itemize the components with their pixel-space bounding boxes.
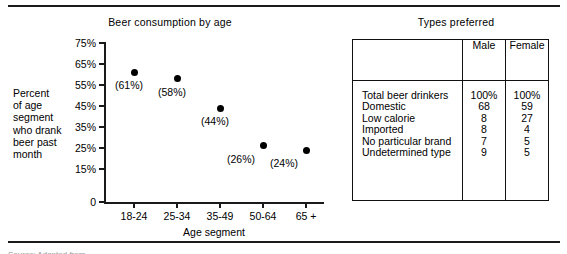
y-axis-tick-label-text: 55% (64, 80, 96, 91)
beer-consumption-chart-panel: Beer consumption by age Percentof ageseg… (0, 8, 340, 238)
figure-container: Beer consumption by age Percentof ageseg… (0, 0, 567, 254)
y-axis-tick-label-text: 15% (64, 164, 96, 175)
data-point-label: (44%) (201, 116, 229, 127)
types-preferred-table: Male Female Total beer drinkersDomesticL… (352, 39, 549, 201)
y-axis-tick (99, 63, 105, 65)
y-axis-tick-label: 75% (62, 38, 96, 49)
data-point (217, 105, 224, 112)
x-axis-label: Age segment (104, 226, 324, 238)
table-row-female-value: 4 (506, 124, 548, 135)
y-axis-tick-label: 45% (62, 101, 96, 112)
data-point (174, 75, 181, 82)
y-axis-tick (99, 84, 105, 86)
y-axis-tick (99, 42, 105, 44)
table-body: Total beer drinkersDomesticLow calorieIm… (353, 81, 549, 201)
y-axis-tick-label-text: 45% (64, 101, 96, 112)
y-axis-tick-label-text: 0 (64, 197, 96, 208)
y-axis-tick-label-text: 65% (64, 59, 96, 70)
table-row-label: Imported (362, 124, 462, 135)
y-axis-tick-label: 15% (62, 164, 96, 175)
y-axis-tick-label-text: 35% (64, 122, 96, 133)
types-preferred-panel: Types preferred Male Female Total beer d… (340, 8, 567, 238)
x-axis-tick (133, 202, 135, 208)
data-point (303, 147, 310, 154)
y-axis-tick (99, 147, 105, 149)
x-axis-tick (262, 202, 264, 208)
y-axis-tick (99, 105, 105, 107)
table-body-row: Total beer drinkersDomesticLow calorieIm… (353, 81, 549, 201)
column-header-male: Male (463, 40, 506, 81)
data-point-label: (24%) (270, 158, 298, 169)
bottom-divider-rule (8, 241, 560, 243)
table-row-male-value: 8 (463, 124, 505, 135)
x-axis-tick-label: 65 + (274, 211, 338, 222)
y-axis-tick-label: 35% (62, 122, 96, 133)
table-row-female-value: 5 (506, 147, 548, 158)
top-divider-rule (8, 5, 560, 7)
column-header-blank (353, 40, 463, 81)
table-header: Male Female (353, 40, 549, 81)
cutoff-source-text: Source: Adapted from (8, 250, 308, 254)
y-axis-tick (99, 168, 105, 170)
y-axis-tick (99, 201, 105, 203)
y-axis-tick (99, 126, 105, 128)
data-point-label: (58%) (158, 87, 186, 98)
plot-area: 75%65%55%45%35%25%15%018-24(61%)25-34(58… (0, 8, 340, 238)
male-values-cell: 100%688879 (463, 81, 506, 201)
data-point (260, 142, 267, 149)
x-axis-tick (219, 202, 221, 208)
column-header-female: Female (506, 40, 549, 81)
x-axis-tick (176, 202, 178, 208)
y-axis-tick-label: 55% (62, 80, 96, 91)
y-axis-tick-label: 65% (62, 59, 96, 70)
y-axis-tick-label-text: 25% (64, 143, 96, 154)
table-row-label: Undetermined type (362, 147, 462, 158)
table-title: Types preferred (352, 16, 560, 28)
table-row-male-value: 9 (463, 147, 505, 158)
y-axis-line (104, 42, 106, 203)
y-axis-tick-label: 25% (62, 143, 96, 154)
data-point-label: (26%) (227, 154, 255, 165)
y-axis-tick-label: 0 (62, 197, 96, 208)
data-point-label: (61%) (115, 80, 143, 91)
data-point (131, 69, 138, 76)
y-axis-tick-label-text: 75% (64, 38, 96, 49)
table-header-row: Male Female (353, 40, 549, 81)
x-axis-line (104, 202, 324, 204)
row-labels-cell: Total beer drinkersDomesticLow calorieIm… (353, 81, 463, 201)
x-axis-tick (305, 202, 307, 208)
female-values-cell: 100%5927455 (506, 81, 549, 201)
